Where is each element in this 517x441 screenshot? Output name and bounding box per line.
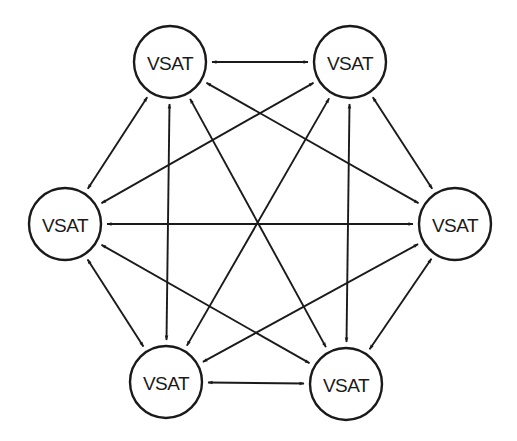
vsat-mesh-diagram: VSATVSATVSATVSATVSATVSAT bbox=[0, 0, 517, 441]
link-arrow-right-to-bottom-right bbox=[370, 259, 432, 350]
vsat-node-top-right: VSAT bbox=[314, 26, 386, 98]
node-label: VSAT bbox=[432, 215, 479, 236]
link-arrow-bottom-left-to-bottom-right bbox=[208, 383, 304, 384]
link-arrow-left-to-bottom-left bbox=[88, 259, 144, 346]
link-arrow-top-right-to-bottom-left bbox=[187, 98, 329, 345]
link-arrow-top-left-to-left bbox=[88, 97, 147, 189]
link-arrow-top-right-to-bottom-right bbox=[347, 104, 350, 342]
node-label: VSAT bbox=[143, 373, 190, 394]
vsat-node-left: VSAT bbox=[29, 188, 101, 260]
vsat-node-top-left: VSAT bbox=[134, 26, 206, 98]
node-label: VSAT bbox=[42, 215, 89, 236]
vsat-node-bottom-right: VSAT bbox=[310, 348, 382, 420]
link-arrow-top-left-to-bottom-left bbox=[167, 104, 170, 340]
node-label: VSAT bbox=[147, 53, 194, 74]
node-label: VSAT bbox=[323, 375, 370, 396]
nodes-layer: VSATVSATVSATVSATVSATVSAT bbox=[29, 26, 491, 420]
link-arrow-top-right-to-right bbox=[373, 97, 432, 189]
link-arrow-top-right-to-left bbox=[102, 83, 314, 203]
vsat-node-bottom-left: VSAT bbox=[130, 346, 202, 418]
vsat-node-right: VSAT bbox=[419, 188, 491, 260]
node-label: VSAT bbox=[327, 53, 374, 74]
links-layer bbox=[88, 62, 433, 384]
link-arrow-left-to-bottom-right bbox=[102, 245, 310, 363]
